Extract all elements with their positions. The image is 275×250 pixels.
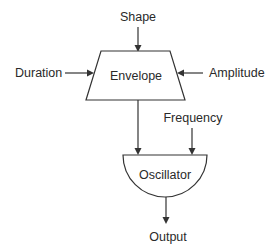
- output-arrowhead-icon: [163, 217, 170, 224]
- envelope-oscillator-diagram: Shape Envelope Duration Amplitude Freque…: [0, 0, 275, 250]
- envelope-arrowhead-icon: [135, 148, 142, 155]
- amplitude-label: Amplitude: [209, 66, 265, 80]
- oscillator-label: Oscillator: [139, 168, 191, 182]
- diagram-canvas: Shape Envelope Duration Amplitude Freque…: [0, 0, 275, 250]
- output-label: Output: [149, 230, 187, 244]
- duration-label: Duration: [15, 66, 62, 80]
- frequency-arrowhead-icon: [189, 148, 196, 155]
- frequency-label: Frequency: [163, 111, 223, 125]
- shape-label: Shape: [120, 10, 156, 24]
- envelope-label: Envelope: [110, 69, 162, 83]
